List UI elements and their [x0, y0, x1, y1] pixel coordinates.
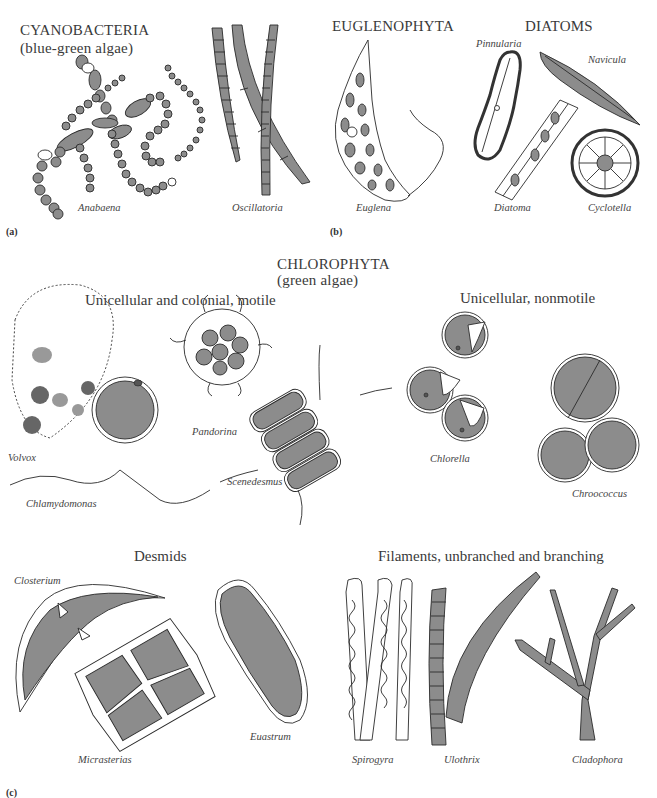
- group-title-motile: Unicellular and colonial, motile: [85, 292, 276, 309]
- euglena-illustration: [335, 40, 443, 201]
- cyanobacteria-subtitle: (blue-green algae): [20, 40, 133, 57]
- ulothrix-illustration: [429, 572, 540, 745]
- chlorella-illustration: [407, 312, 488, 441]
- label-cladophora: Cladophora: [572, 754, 623, 765]
- panel-label-c: (c): [6, 787, 17, 798]
- label-micrasterias: Micrasterias: [78, 754, 132, 765]
- anabaena-illustration: [33, 55, 205, 219]
- cyclotella-illustration: [572, 130, 638, 196]
- label-chlamydomonas: Chlamydomonas: [26, 498, 97, 509]
- label-oscillatoria: Oscillatoria: [232, 202, 283, 213]
- label-spirogyra: Spirogyra: [352, 754, 394, 765]
- cyanobacteria-title: CYANOBACTERIA: [20, 22, 149, 39]
- label-scenedesmus: Scenedesmus: [227, 476, 282, 487]
- label-pinnularia: Pinnularia: [476, 38, 522, 49]
- chroococcus-illustration: [538, 354, 639, 482]
- label-anabaena: Anabaena: [78, 202, 121, 213]
- spirogyra-illustration: [346, 578, 412, 740]
- label-euastrum: Euastrum: [250, 731, 291, 742]
- label-diatoma: Diatoma: [494, 202, 531, 213]
- label-closterium: Closterium: [14, 575, 61, 586]
- pinnularia-illustration: [475, 52, 520, 159]
- group-title-desmids: Desmids: [134, 548, 187, 565]
- oscillatoria-illustration: [212, 25, 310, 195]
- label-ulothrix: Ulothrix: [444, 754, 480, 765]
- label-navicula: Navicula: [588, 54, 626, 65]
- diatoms-title: DIATOMS: [525, 18, 593, 35]
- label-chlorella: Chlorella: [430, 453, 470, 464]
- chlorophyta-title: CHLOROPHYTA: [277, 256, 390, 273]
- euglenophyta-title: EUGLENOPHYTA: [332, 18, 454, 35]
- group-title-nonmotile: Unicellular, nonmotile: [460, 290, 595, 307]
- micrasterias-illustration: [71, 616, 220, 754]
- label-chroococcus: Chroococcus: [572, 488, 627, 499]
- chlorophyta-subtitle: (green algae): [277, 272, 358, 289]
- euastrum-illustration: [215, 580, 307, 723]
- label-pandorina: Pandorina: [192, 426, 237, 437]
- cladophora-illustration: [515, 588, 635, 740]
- pandorina-illustration: [170, 295, 272, 396]
- label-volvox: Volvox: [8, 452, 36, 463]
- label-cyclotella: Cyclotella: [588, 202, 631, 213]
- group-title-filaments: Filaments, unbranched and branching: [378, 548, 604, 565]
- panel-label-b: (b): [330, 226, 342, 237]
- panel-label-a: (a): [6, 226, 18, 237]
- label-euglena: Euglena: [356, 202, 391, 213]
